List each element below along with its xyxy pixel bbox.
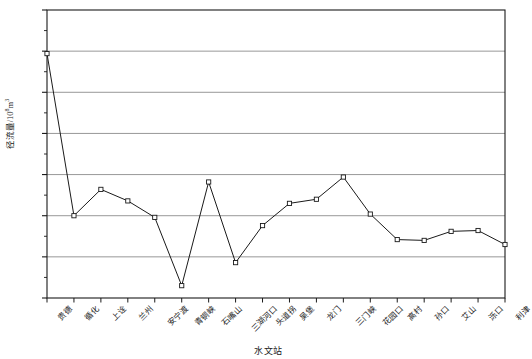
data-point-marker — [314, 197, 318, 201]
data-point-marker — [503, 242, 507, 246]
data-point-marker — [153, 215, 157, 219]
data-point-marker — [476, 228, 480, 232]
data-point-marker — [126, 199, 130, 203]
x-axis-title: 水文站 — [254, 344, 283, 357]
data-point-marker — [45, 52, 49, 56]
data-point-marker — [207, 180, 211, 184]
data-point-marker — [449, 229, 453, 233]
data-point-marker — [260, 223, 264, 227]
data-point-marker — [368, 212, 372, 216]
data-point-marker — [395, 237, 399, 241]
data-point-marker — [99, 187, 103, 191]
data-point-marker — [233, 261, 237, 265]
data-point-marker — [180, 284, 184, 288]
x-axis-category-label: 利津 — [515, 305, 532, 322]
data-point-marker — [287, 201, 291, 205]
data-point-marker — [341, 175, 345, 179]
data-point-marker — [422, 238, 426, 242]
data-point-marker — [72, 214, 76, 218]
